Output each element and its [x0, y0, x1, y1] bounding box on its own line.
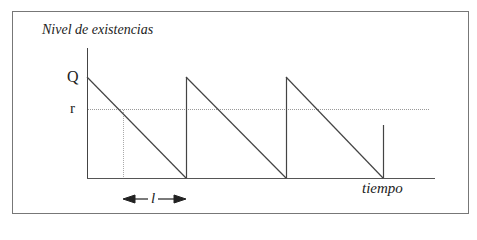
x-axis-title: tiempo — [362, 180, 403, 197]
sawtooth-line — [87, 77, 384, 178]
q-label: Q — [67, 68, 79, 86]
y-axis-title: Nivel de existencias — [42, 22, 153, 38]
lead-time-label: l — [151, 190, 155, 207]
r-label: r — [70, 100, 75, 117]
